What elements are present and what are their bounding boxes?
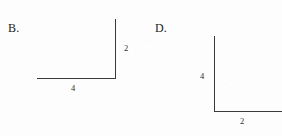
panel-b-vertical-segment — [115, 19, 116, 79]
figure-panel-d: D. 4 2 — [141, 0, 282, 136]
panel-b-horizontal-segment — [37, 78, 116, 79]
panel-b-vertical-dimension-label: 2 — [124, 44, 128, 53]
panel-d-vertical-segment — [214, 36, 215, 112]
figure-panel-b: B. 2 4 — [0, 0, 141, 136]
panel-d-vertical-dimension-label: 4 — [200, 72, 204, 81]
panel-d-horizontal-dimension-label: 2 — [240, 117, 244, 126]
panel-label-b: B. — [8, 22, 19, 34]
panel-b-horizontal-dimension-label: 4 — [71, 84, 75, 93]
panel-label-d: D. — [155, 22, 167, 34]
panel-d-horizontal-segment — [214, 111, 282, 112]
figure-canvas: B. 2 4 D. 4 2 — [0, 0, 282, 136]
